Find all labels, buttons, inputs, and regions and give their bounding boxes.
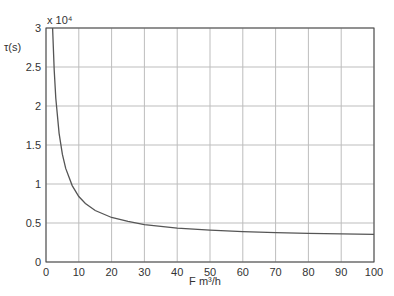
y-axis-label: τ(s) xyxy=(4,41,21,53)
x-tick-label: 90 xyxy=(335,266,347,278)
data-line xyxy=(53,28,374,234)
y-multiplier: x 10⁴ xyxy=(47,14,73,26)
y-tick-label: 1 xyxy=(35,178,41,190)
x-tick-label: 40 xyxy=(171,266,183,278)
x-tick-label: 100 xyxy=(365,266,383,278)
x-tick-label: 0 xyxy=(43,266,49,278)
x-tick-label: 80 xyxy=(302,266,314,278)
y-tick-label: 3 xyxy=(35,22,41,34)
grid-lines xyxy=(46,28,374,262)
y-tick-label: 1.5 xyxy=(26,139,41,151)
x-axis-label: F m³/h xyxy=(189,275,221,287)
y-tick-label: 2.5 xyxy=(26,61,41,73)
x-tick-label: 10 xyxy=(73,266,85,278)
y-tick-label: 2 xyxy=(35,100,41,112)
chart: 0102030405060708090100 00.511.522.53 x 1… xyxy=(0,0,394,296)
y-tick-label: 0 xyxy=(35,256,41,268)
y-tick-label: 0.5 xyxy=(26,217,41,229)
y-axis-ticks: 00.511.522.53 xyxy=(26,22,41,268)
x-tick-label: 60 xyxy=(237,266,249,278)
x-tick-label: 70 xyxy=(269,266,281,278)
x-tick-label: 30 xyxy=(138,266,150,278)
x-tick-label: 20 xyxy=(105,266,117,278)
